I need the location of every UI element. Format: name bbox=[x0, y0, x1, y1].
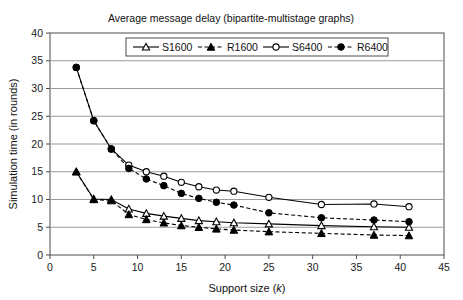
data-point-r6400-11 bbox=[318, 215, 325, 222]
legend-marker-s6400 bbox=[273, 44, 279, 50]
y-tick-label-20: 20 bbox=[31, 138, 43, 150]
data-point-s6400-6 bbox=[178, 179, 184, 185]
data-point-s6400-5 bbox=[161, 173, 167, 179]
x-axis-title: Support size (k) bbox=[208, 282, 285, 294]
legend-label-s6400: S6400 bbox=[292, 41, 323, 53]
chart-title: Average message delay (bipartite-multist… bbox=[108, 12, 354, 24]
data-point-s6400-10 bbox=[266, 194, 272, 200]
x-axis-title-tail: ) bbox=[282, 282, 286, 294]
data-point-r6400-3 bbox=[126, 165, 133, 172]
legend-label-s1600: S1600 bbox=[162, 41, 193, 53]
y-tick-label-25: 25 bbox=[31, 110, 43, 122]
data-point-s6400-13 bbox=[406, 204, 412, 210]
x-tick-label-40: 40 bbox=[394, 261, 406, 273]
y-tick-label-0: 0 bbox=[37, 249, 43, 261]
y-tick-label-40: 40 bbox=[31, 27, 43, 39]
y-tick-label-15: 15 bbox=[31, 165, 43, 177]
y-tick-label-35: 35 bbox=[31, 54, 43, 66]
x-tick-label-15: 15 bbox=[175, 261, 187, 273]
legend-label-r6400: R6400 bbox=[357, 41, 388, 53]
data-point-s6400-7 bbox=[196, 184, 202, 190]
y-tick-label-5: 5 bbox=[37, 221, 43, 233]
legend-label-r1600: R1600 bbox=[227, 41, 258, 53]
data-point-r6400-6 bbox=[178, 190, 185, 197]
chart-container: Average message delay (bipartite-multist… bbox=[0, 0, 463, 300]
data-point-r6400-4 bbox=[143, 176, 150, 183]
data-point-r6400-12 bbox=[371, 217, 378, 224]
x-axis-title-plain: Support size ( bbox=[208, 282, 276, 294]
data-point-r6400-2 bbox=[108, 146, 115, 153]
x-tick-label-0: 0 bbox=[47, 261, 53, 273]
x-tick-label-5: 5 bbox=[91, 261, 97, 273]
data-point-r6400-10 bbox=[266, 210, 273, 217]
data-point-r6400-0 bbox=[73, 64, 80, 71]
data-point-s6400-11 bbox=[318, 201, 324, 207]
legend: S1600R1600S6400R6400 bbox=[126, 38, 388, 56]
x-tick-label-25: 25 bbox=[263, 261, 275, 273]
y-tick-label-30: 30 bbox=[31, 82, 43, 94]
data-point-s6400-8 bbox=[213, 187, 219, 193]
data-point-r6400-7 bbox=[196, 195, 203, 202]
data-point-r6400-8 bbox=[213, 199, 220, 206]
y-axis-title: Simulation time (in rounds) bbox=[7, 79, 19, 210]
data-point-s6400-9 bbox=[231, 188, 237, 194]
data-point-s6400-4 bbox=[143, 169, 149, 175]
x-tick-label-20: 20 bbox=[219, 261, 231, 273]
y-tick-label-10: 10 bbox=[31, 193, 43, 205]
data-point-r6400-1 bbox=[90, 117, 97, 124]
line-chart: Average message delay (bipartite-multist… bbox=[0, 0, 463, 300]
data-point-r6400-5 bbox=[161, 182, 168, 189]
x-tick-label-30: 30 bbox=[307, 261, 319, 273]
plot-area bbox=[46, 33, 444, 259]
legend-marker-r6400 bbox=[338, 44, 345, 51]
data-point-r6400-13 bbox=[406, 218, 413, 225]
x-tick-label-45: 45 bbox=[438, 261, 450, 273]
data-point-s6400-12 bbox=[371, 201, 377, 207]
x-tick-label-35: 35 bbox=[351, 261, 363, 273]
x-tick-label-10: 10 bbox=[132, 261, 144, 273]
data-point-r6400-9 bbox=[231, 202, 238, 209]
